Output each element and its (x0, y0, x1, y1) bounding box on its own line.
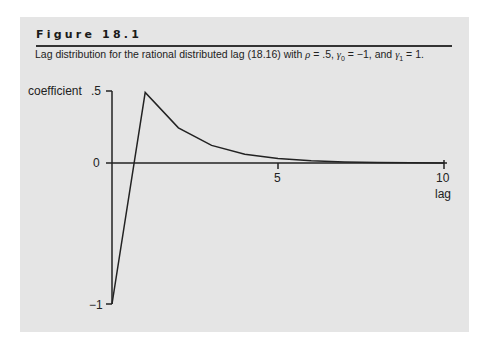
y-tick-label-top: .5 (91, 84, 101, 98)
y-tick-label-bottom: −1 (89, 298, 103, 312)
lag-distribution-chart: coefficient .5 0 −1 5 10 lag (0, 0, 494, 353)
x-tick-label-10: 10 (436, 171, 450, 185)
data-line (112, 93, 444, 305)
y-axis-label: coefficient (28, 84, 82, 98)
x-tick-label-5: 5 (274, 171, 281, 185)
y-tick-label-zero: 0 (93, 156, 100, 170)
x-axis-label: lag (435, 187, 451, 201)
